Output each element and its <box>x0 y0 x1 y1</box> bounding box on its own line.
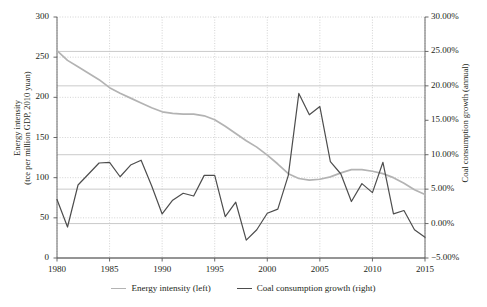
x-axis-tick-label: 1980 <box>37 264 77 274</box>
y-axis-right-tick-label: 25.00% <box>431 45 479 55</box>
y-axis-right-tick-label: 20.00% <box>431 80 479 90</box>
y-axis-right-tick-label: −5.00% <box>431 252 479 262</box>
plot-area <box>0 0 487 307</box>
x-axis-tick-label: 2000 <box>247 264 287 274</box>
legend-item-energy-intensity: Energy intensity (left) <box>111 283 210 293</box>
y-axis-right-tick-label: 15.00% <box>431 114 479 124</box>
x-axis-tick-label: 1995 <box>195 264 235 274</box>
x-axis-tick-label: 1985 <box>90 264 130 274</box>
x-axis-tick-label: 2005 <box>300 264 340 274</box>
series-lines <box>57 51 425 240</box>
x-axis-tick-label: 1990 <box>142 264 182 274</box>
y-axis-right-tick-label: 30.00% <box>431 11 479 21</box>
y-axis-right-tick-label: 10.00% <box>431 149 479 159</box>
chart-container: Energy intensity (tce per million GDP, 2… <box>0 0 487 307</box>
legend-label-energy-intensity: Energy intensity (left) <box>131 283 210 293</box>
y-axis-left-tick-label: 150 <box>15 132 49 142</box>
y-axis-left-tick-label: 100 <box>15 172 49 182</box>
y-axis-right-tick-label: 0.00% <box>431 218 479 228</box>
y-axis-right-tick-label: 5.00% <box>431 183 479 193</box>
y-axis-left-tick-label: 200 <box>15 91 49 101</box>
y-axis-left-tick-label: 0 <box>15 252 49 262</box>
legend-swatch-energy-intensity <box>111 288 126 289</box>
legend-swatch-coal-growth <box>237 288 252 289</box>
y-axis-left-tick-label: 300 <box>15 11 49 21</box>
x-axis-tick-label: 2015 <box>405 264 445 274</box>
y-axis-left-tick-label: 250 <box>15 51 49 61</box>
x-axis-tick-label: 2010 <box>352 264 392 274</box>
y-axis-left-tick-label: 50 <box>15 212 49 222</box>
legend-item-coal-growth: Coal consumption growth (right) <box>237 283 376 293</box>
chart-legend: Energy intensity (left) Coal consumption… <box>0 283 487 293</box>
legend-label-coal-growth: Coal consumption growth (right) <box>257 283 376 293</box>
